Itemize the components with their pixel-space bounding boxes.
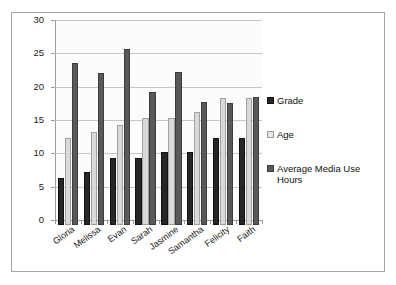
legend-item[interactable]: Age bbox=[267, 129, 382, 140]
gridline bbox=[55, 20, 262, 21]
bar-grade bbox=[84, 172, 90, 225]
y-axis-tick-label: 10 bbox=[20, 148, 44, 158]
legend-swatch-icon bbox=[267, 131, 274, 138]
bar-average-media-use-hours bbox=[175, 72, 181, 225]
bar-average-media-use-hours bbox=[72, 63, 78, 225]
legend-label: Grade bbox=[277, 95, 303, 106]
legend-swatch-icon bbox=[267, 165, 274, 172]
legend-swatch-icon bbox=[267, 97, 274, 104]
bar-group bbox=[210, 25, 236, 225]
bar-average-media-use-hours bbox=[149, 92, 155, 225]
bar-age bbox=[194, 112, 200, 225]
bar-average-media-use-hours bbox=[227, 103, 233, 225]
bar-age bbox=[246, 98, 252, 225]
y-tick-mark bbox=[51, 20, 55, 21]
bar-age bbox=[168, 118, 174, 225]
bar-age bbox=[220, 98, 226, 225]
legend-label: Age bbox=[277, 129, 294, 140]
chart-legend: GradeAgeAverage Media Use Hours bbox=[267, 95, 382, 208]
bar-grade bbox=[135, 158, 141, 225]
bar-age bbox=[91, 132, 97, 225]
y-axis-tick-label: 15 bbox=[20, 115, 44, 125]
legend-item[interactable]: Average Media Use Hours bbox=[267, 163, 382, 185]
y-axis-tick-label: 5 bbox=[20, 182, 44, 192]
bar-average-media-use-hours bbox=[124, 49, 130, 225]
bar-grade bbox=[58, 178, 64, 225]
bar-grade bbox=[239, 138, 245, 225]
bar-grade bbox=[110, 158, 116, 225]
bar-grade bbox=[187, 152, 193, 225]
bar-group bbox=[81, 25, 107, 225]
y-axis-tick-label: 30 bbox=[20, 15, 44, 25]
bar-age bbox=[142, 118, 148, 225]
bar-average-media-use-hours bbox=[201, 102, 207, 225]
bar-age bbox=[117, 125, 123, 225]
bar-group bbox=[159, 25, 185, 225]
bar-group bbox=[107, 25, 133, 225]
bar-grade bbox=[161, 152, 167, 225]
bar-group bbox=[55, 25, 81, 225]
y-axis-tick-label: 20 bbox=[20, 82, 44, 92]
bar-group bbox=[184, 25, 210, 225]
bar-age bbox=[65, 138, 71, 225]
bar-average-media-use-hours bbox=[253, 97, 259, 225]
plot-wrapper: 302520151050 GloriaMelissaEvanSarahJasmi… bbox=[44, 20, 262, 225]
x-tick-mark bbox=[262, 220, 263, 224]
bar-grade bbox=[213, 138, 219, 225]
bar-group bbox=[236, 25, 262, 225]
bar-average-media-use-hours bbox=[98, 73, 104, 225]
y-axis-tick-label: 25 bbox=[20, 48, 44, 58]
bar-group bbox=[133, 25, 159, 225]
y-axis-tick-label: 0 bbox=[20, 215, 44, 225]
legend-item[interactable]: Grade bbox=[267, 95, 382, 106]
chart-figure: 302520151050 GloriaMelissaEvanSarahJasmi… bbox=[11, 12, 385, 272]
legend-label: Average Media Use Hours bbox=[277, 163, 382, 185]
